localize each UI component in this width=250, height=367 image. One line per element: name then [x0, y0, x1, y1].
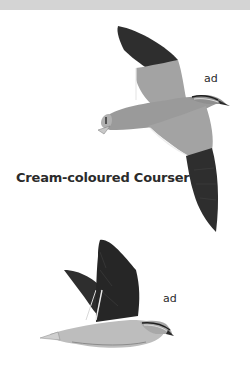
- age-label-bottom: ad: [163, 292, 177, 305]
- bird-overhead-illustration: [98, 26, 230, 232]
- species-name: Cream-coloured Courser: [16, 170, 190, 185]
- bird-side-illustration: [40, 240, 174, 348]
- age-label-top: ad: [204, 72, 218, 85]
